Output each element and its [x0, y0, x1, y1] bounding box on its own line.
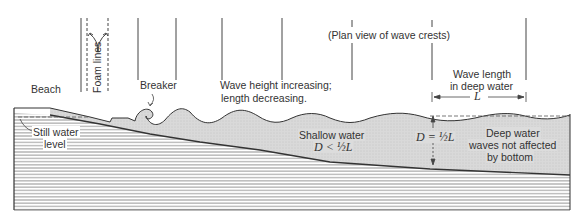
wave-length-label-line2: in deep water — [450, 80, 513, 92]
foam-lines-label: Foam lines — [91, 42, 103, 93]
deep-water-label-line1: Deep water — [485, 127, 541, 139]
wave-height-label-line1: Wave height increasing; — [220, 79, 332, 91]
wave-height-label-line2: length decreasing. — [221, 92, 307, 104]
still-water-label-line2: level — [43, 138, 67, 150]
shallow-water-formula: D < ½L — [313, 141, 353, 153]
breaker-label: Breaker — [140, 79, 177, 91]
plan-view-label: (Plan view of wave crests) — [327, 29, 451, 41]
wave-length-symbol: L — [474, 90, 481, 102]
wave-length-label-line1: Wave length — [453, 68, 511, 80]
depth-formula: D = ½L — [415, 131, 455, 143]
deep-water-label-line2: waves not affected — [468, 139, 557, 151]
wave-diagram — [0, 0, 582, 217]
beach-label: Beach — [31, 83, 61, 95]
deep-water-label-line3: by bottom — [486, 151, 534, 163]
still-water-label-line1: Still water — [32, 126, 80, 138]
